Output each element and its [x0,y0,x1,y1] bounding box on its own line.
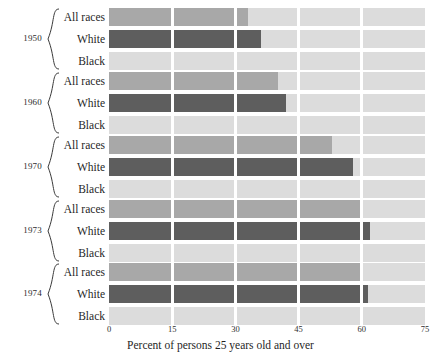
gridline-separator [234,200,237,218]
bar-fill [109,72,278,90]
gridline-separator [297,180,300,198]
category-label: Black [50,52,105,70]
gridline-separator [171,307,174,325]
gridline-separator [234,30,237,48]
gridline-separator [234,116,237,134]
category-label: White [50,222,105,240]
x-axis-tick-label: 30 [231,324,240,334]
bar-row: White [0,158,441,176]
bar-row: White [0,94,441,112]
x-axis-tick-label: 75 [421,324,430,334]
bar-row: White [0,222,441,240]
gridline-separator [171,285,174,303]
bar-track [109,8,425,26]
bar-fill [109,285,368,303]
bar-row: All races [0,136,441,154]
gridline-separator [360,285,363,303]
bar-row: All races [0,72,441,90]
category-label: White [50,94,105,112]
x-axis-tick-label: 45 [294,324,303,334]
bar-row: All races [0,263,441,281]
gridline-separator [171,94,174,112]
gridline-separator [297,222,300,240]
gridline-separator [171,116,174,134]
gridline-separator [234,158,237,176]
year-group: 1973All racesWhiteBlack [0,200,441,262]
gridline-separator [171,30,174,48]
gridline-separator [360,244,363,262]
gridline-separator [171,263,174,281]
bar-row: All races [0,8,441,26]
gridline-separator [360,52,363,70]
gridline-separator [297,158,300,176]
x-axis-tick-label: 15 [168,324,177,334]
year-group: 1950All racesWhiteBlack [0,8,441,70]
gridline-separator [297,116,300,134]
gridline-separator [360,136,363,154]
gridline-separator [171,72,174,90]
bar-track [109,158,425,176]
gridline-separator [360,263,363,281]
category-label: All races [50,8,105,26]
bar-row: All races [0,200,441,218]
gridline-separator [234,285,237,303]
bar-row: White [0,285,441,303]
bar-track [109,222,425,240]
gridline-separator [234,52,237,70]
gridline-separator [171,180,174,198]
bar-row: White [0,30,441,48]
gridline-separator [234,222,237,240]
bar-track [109,94,425,112]
bar-track [109,30,425,48]
x-axis: 01530456075 [109,324,425,338]
category-label: Black [50,180,105,198]
gridline-separator [297,72,300,90]
bar-track-background [109,116,425,134]
gridline-separator [360,8,363,26]
category-label: All races [50,136,105,154]
gridline-separator [297,285,300,303]
category-label: Black [50,116,105,134]
bar-track-background [109,180,425,198]
gridline-separator [171,52,174,70]
gridline-separator [297,307,300,325]
gridline-separator [360,72,363,90]
gridline-separator [297,52,300,70]
gridline-separator [297,94,300,112]
gridline-separator [171,158,174,176]
bar-fill [109,222,370,240]
gridline-separator [297,200,300,218]
bar-track [109,116,425,134]
x-axis-title: Percent of persons 25 years old and over [0,339,441,351]
gridline-separator [360,94,363,112]
gridline-separator [234,180,237,198]
gridline-separator [297,244,300,262]
bar-track [109,52,425,70]
bar-fill [109,158,353,176]
gridline-separator [297,30,300,48]
category-label: White [50,158,105,176]
bar-fill [109,8,248,26]
bar-track [109,244,425,262]
bar-track [109,180,425,198]
gridline-separator [360,200,363,218]
bar-row: Black [0,52,441,70]
bar-row: Black [0,116,441,134]
gridline-separator [360,30,363,48]
gridline-separator [360,116,363,134]
gridline-separator [234,244,237,262]
bar-row: Black [0,244,441,262]
gridline-separator [171,244,174,262]
gridline-separator [171,222,174,240]
gridline-separator [360,307,363,325]
bar-track [109,263,425,281]
category-label: All races [50,200,105,218]
bar-track [109,72,425,90]
category-label: White [50,285,105,303]
bar-track-background [109,244,425,262]
category-label: All races [50,72,105,90]
bar-row: Black [0,180,441,198]
bar-track-background [109,307,425,325]
category-label: White [50,30,105,48]
year-group: 1974All racesWhiteBlack [0,263,441,325]
